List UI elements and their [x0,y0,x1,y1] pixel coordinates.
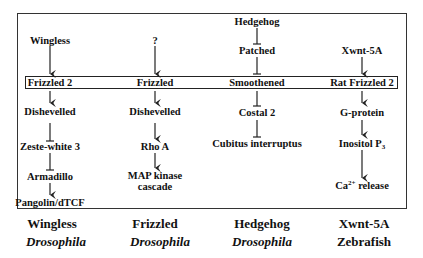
node-cubitus-interruptus: Cubitus interruptus [212,138,302,150]
caption-organism-hedgehog: Drosophila [232,234,292,249]
node-rho-a: Rho A [141,141,169,153]
node-pangolin-dtcf: Pangolin/dTCF [15,197,84,209]
node-frizzled: Frizzled [137,77,174,89]
caption-organism-xwnt: Zebrafish [337,234,391,249]
node-armadillo: Armadillo [27,171,73,183]
node-wingless: Wingless [30,35,70,47]
node-map-kinase-line2: cascade [138,181,172,193]
node-zeste-white-3: Zeste-white 3 [20,141,80,153]
node-costal-2: Costal 2 [239,107,275,119]
caption-pathway-xwnt: Xwnt-5A [339,216,390,231]
caption-organism-wingless: Drosophila [26,234,86,249]
node-dishevelled-2: Dishevelled [129,106,180,118]
node-patched: Patched [239,45,275,57]
node-smoothened: Smoothened [229,77,284,89]
node-inositol-p3: Inositol P3 [339,138,385,150]
caption-pathway-frizzled: Frizzled [132,216,177,231]
caption-pathway-hedgehog: Hedgehog [234,216,290,231]
caption-pathway-wingless: Wingless [27,216,77,231]
node-dishevelled: Dishevelled [24,106,75,118]
node-unknown-ligand: ? [152,35,157,47]
node-ca-release: Ca2+ release [335,180,389,192]
node-hedgehog: Hedgehog [235,16,280,28]
caption-organism-frizzled: Drosophila [130,234,190,249]
node-frizzled-2: Frizzled 2 [28,77,73,89]
node-g-protein: G-protein [340,107,384,119]
node-xwnt-5a: Xwnt-5A [342,45,383,57]
node-rat-frizzled-2: Rat Frizzled 2 [330,77,394,89]
